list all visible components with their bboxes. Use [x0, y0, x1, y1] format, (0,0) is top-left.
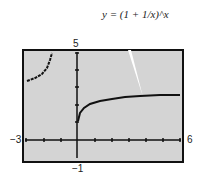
ymax-label: 5 [73, 38, 79, 49]
xmax-label: 6 [187, 134, 193, 145]
ymin-label: −1 [72, 163, 83, 173]
graph-window [0, 0, 201, 173]
xmin-label: −3 [10, 134, 21, 145]
